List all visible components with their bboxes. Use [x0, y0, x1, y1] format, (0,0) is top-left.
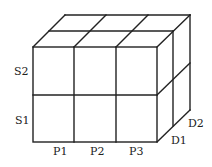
column-label-p3: P3	[129, 146, 143, 157]
row-label-s2: S2	[14, 66, 29, 77]
row-label-s1: S1	[15, 115, 30, 126]
depth-label-d2: D2	[188, 118, 204, 129]
front-face	[33, 47, 157, 142]
side-face	[157, 15, 190, 142]
column-label-p2: P2	[90, 146, 104, 157]
depth-label-d1: D1	[171, 135, 187, 146]
top-face	[33, 15, 190, 47]
column-label-p1: P1	[53, 146, 67, 157]
